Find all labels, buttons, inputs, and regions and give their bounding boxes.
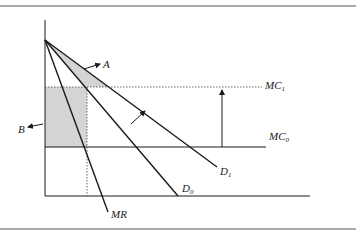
label-d1: D1 <box>219 165 231 179</box>
label-mc1: MC1 <box>264 79 285 93</box>
a-pointer-arrow-icon <box>84 64 100 69</box>
label-mc0: MC0 <box>268 130 290 144</box>
label-a: A <box>102 58 110 70</box>
label-d0: D0 <box>181 182 194 196</box>
demand-shift-arrow-icon <box>131 111 145 124</box>
label-mr: MR <box>110 208 127 220</box>
b-pointer-arrow-icon <box>28 124 43 127</box>
label-b: B <box>18 123 25 135</box>
economics-diagram: A B MC1 MC0 D1 D0 MR <box>0 0 356 240</box>
